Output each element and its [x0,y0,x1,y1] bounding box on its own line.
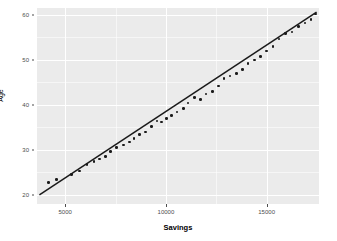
data-point [115,146,118,149]
data-point [165,117,168,120]
y-tick-label: 30 [22,147,29,153]
data-point [55,178,58,181]
y-tick-mark [32,59,35,60]
data-point [122,144,125,147]
data-point [104,155,107,158]
data-point [297,25,300,28]
data-point [310,18,313,21]
y-tick-mark [32,14,35,15]
data-point [128,141,131,144]
data-point [182,107,185,110]
chart-figure: 2030405060 50001000015000 Age Savings [0,0,337,241]
data-point [47,181,50,184]
data-point [235,72,238,75]
data-point [259,55,262,58]
y-tick-label: 50 [22,57,29,63]
y-tick-mark [32,104,35,105]
x-tick-label: 15000 [258,209,275,215]
y-tick-mark [32,149,35,150]
y-tick-label: 20 [22,192,29,198]
data-point [193,96,196,99]
data-point [93,160,96,163]
data-layer [37,8,319,204]
x-axis: 50001000015000 [37,204,319,218]
data-point [133,137,136,140]
x-tick-mark [166,204,167,207]
x-tick-label: 10000 [158,209,175,215]
data-point [284,32,287,35]
y-tick-label: 40 [22,102,29,108]
data-point [138,133,141,136]
data-point [150,125,153,128]
y-tick-label: 60 [22,12,29,18]
regression-line [37,8,319,204]
x-tick-mark [267,204,268,207]
y-axis-title: Age [0,89,4,101]
y-tick-mark [32,194,35,195]
plot-panel [37,8,319,204]
data-point [199,98,202,101]
x-tick-label: 5000 [59,209,72,215]
x-axis-title: Savings [37,223,319,232]
data-point [86,163,89,166]
data-point [170,114,173,117]
data-point [272,45,275,48]
data-point [241,68,244,71]
x-tick-mark [65,204,66,207]
data-point [70,173,73,176]
y-axis: 2030405060 [0,8,34,204]
data-point [211,90,214,93]
data-point [217,85,220,88]
data-point [265,50,268,53]
data-point [253,59,256,62]
data-point [98,158,101,161]
